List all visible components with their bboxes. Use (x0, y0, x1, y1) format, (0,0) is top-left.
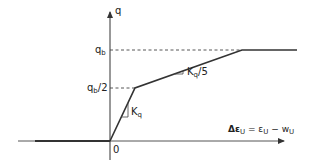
qb-half-label: qb/2 (87, 83, 108, 95)
y-axis-label: q (115, 6, 121, 16)
origin-label: 0 (113, 145, 119, 155)
slope-kq-label: Kq (131, 107, 142, 119)
x-axis-label: ΔεU = εU − wU (228, 125, 294, 136)
load-slip-diagram (0, 0, 310, 167)
slope-kq5-label: Kq/5 (187, 67, 208, 79)
qb-label: qb (95, 45, 106, 57)
